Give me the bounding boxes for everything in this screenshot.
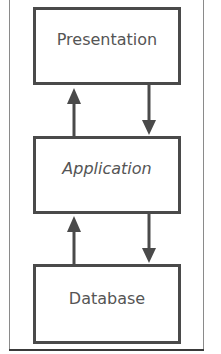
up-arrow-database-to-application-icon [67, 216, 81, 264]
down-arrow-application-to-database-icon [142, 214, 156, 263]
down-arrow-presentation-to-application-icon [142, 85, 156, 135]
up-arrow-application-to-presentation-icon [67, 88, 81, 136]
arrows-layer [0, 0, 221, 354]
